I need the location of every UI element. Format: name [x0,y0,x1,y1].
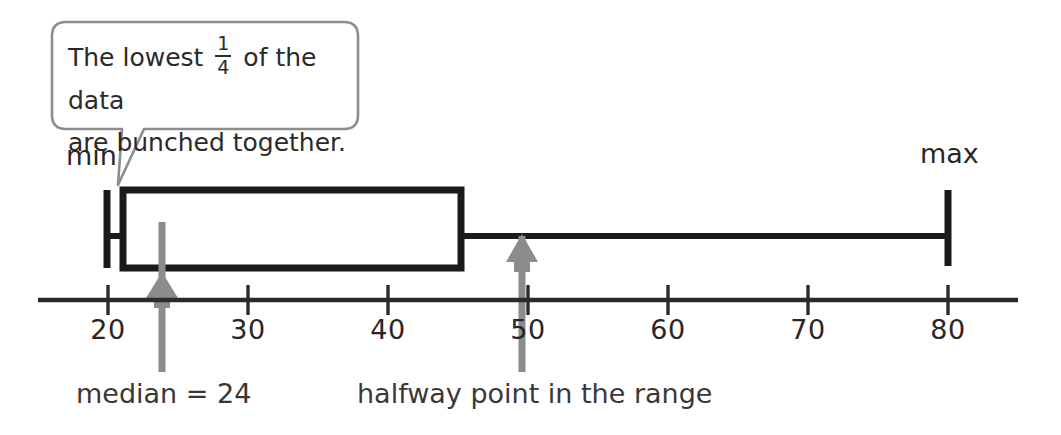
axis-tick-label-30: 30 [230,316,265,343]
axis-tick-label-50: 50 [510,316,545,343]
axis-tick-label-20: 20 [90,316,125,343]
median-pointer-arrowhead [146,272,178,308]
min-label: min [66,142,117,169]
median-caption: median = 24 [76,380,251,407]
max-label: max [920,140,979,167]
halfway-pointer-arrowhead [506,234,538,272]
number-line-axis [38,285,1018,315]
axis-tick-label-40: 40 [370,316,405,343]
axis-tick-label-70: 70 [790,316,825,343]
halfway-caption: halfway point in the range [357,380,712,407]
one-quarter-fraction: 1 4 [215,34,231,78]
axis-tick-label-60: 60 [650,316,685,343]
callout-line-1: The lowest 1 4 of the data [68,36,348,122]
axis-tick-label-80: 80 [930,316,965,343]
interquartile-box [123,190,461,268]
boxplot-figure: The lowest 1 4 of the data are bunched t… [0,0,1061,435]
fraction-numerator: 1 [215,34,231,54]
callout-line1-before: The lowest [68,43,203,72]
halfway-pointer [506,234,538,372]
fraction-denominator: 4 [215,58,231,78]
